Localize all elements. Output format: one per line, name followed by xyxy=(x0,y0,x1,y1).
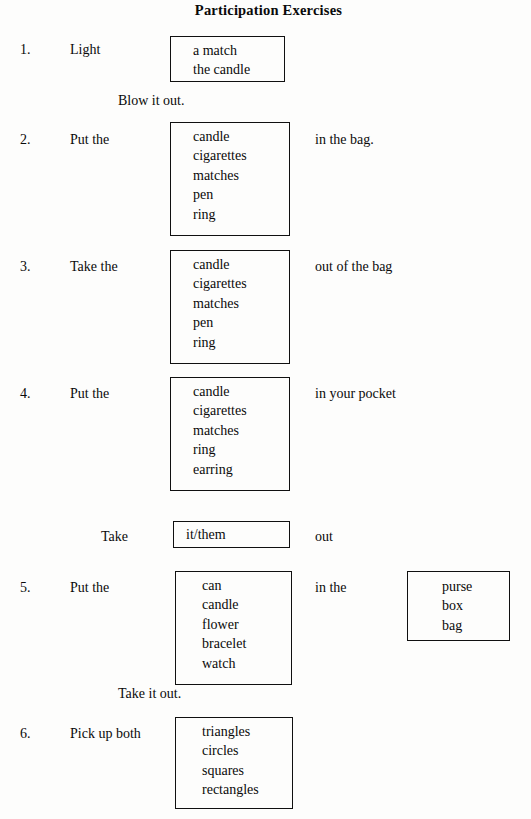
choice-option[interactable]: matches xyxy=(193,294,289,313)
choice-option[interactable]: ring xyxy=(193,205,289,224)
exercise-stem-3: Take the xyxy=(70,259,118,275)
exercise-number-1: 1. xyxy=(20,42,46,58)
exercise-followup-stem-4: Take xyxy=(101,529,128,545)
choice-option[interactable]: matches xyxy=(193,421,289,440)
exercise-stem-5: Put the xyxy=(70,580,109,596)
page-title: Participation Exercises xyxy=(0,2,531,19)
exercise-stem-1: Light xyxy=(70,42,100,58)
choice-option[interactable]: triangles xyxy=(202,722,292,741)
choice-option[interactable]: ring xyxy=(193,440,289,459)
choice-box-2[interactable]: candle cigarettes matches pen ring xyxy=(170,122,290,236)
exercise-note-1: Blow it out. xyxy=(118,93,185,109)
choice-box-6[interactable]: triangles circles squares rectangles xyxy=(175,717,293,809)
choice-option[interactable]: rectangles xyxy=(202,780,292,799)
exercise-stem-4: Put the xyxy=(70,386,109,402)
exercise-number-4: 4. xyxy=(20,386,46,402)
choice-option[interactable]: circles xyxy=(202,741,292,760)
exercise-tail-2: in the bag. xyxy=(315,132,374,148)
choice-option[interactable]: box xyxy=(442,596,509,615)
exercise-tail-3: out of the bag xyxy=(315,259,392,275)
choice-option[interactable]: cigarettes xyxy=(193,401,289,420)
choice-option[interactable]: pen xyxy=(193,313,289,332)
choice-option[interactable]: ring xyxy=(193,333,289,352)
choice-option[interactable]: cigarettes xyxy=(193,274,289,293)
choice-box-1[interactable]: a match the candle xyxy=(170,36,285,82)
choice-option[interactable]: it/them xyxy=(186,525,289,544)
exercise-number-6: 6. xyxy=(20,726,46,742)
exercise-number-5: 5. xyxy=(20,580,46,596)
exercise-tail-5: in the xyxy=(315,580,347,596)
exercise-note-5: Take it out. xyxy=(118,686,181,702)
choice-option[interactable]: purse xyxy=(442,577,509,596)
choice-option[interactable]: the candle xyxy=(193,60,284,79)
choice-option[interactable]: candle xyxy=(202,595,291,614)
choice-option[interactable]: cigarettes xyxy=(193,146,289,165)
choice-option[interactable]: matches xyxy=(193,166,289,185)
choice-option[interactable]: bag xyxy=(442,616,509,635)
choice-option[interactable]: earring xyxy=(193,460,289,479)
choice-box-3[interactable]: candle cigarettes matches pen ring xyxy=(170,250,290,364)
choice-option[interactable]: flower xyxy=(202,615,291,634)
choice-option[interactable]: bracelet xyxy=(202,634,291,653)
choice-box-4-followup[interactable]: it/them xyxy=(173,521,290,548)
choice-option[interactable]: candle xyxy=(193,127,289,146)
exercise-stem-6: Pick up both xyxy=(70,726,141,742)
choice-option[interactable]: can xyxy=(202,576,291,595)
exercise-number-3: 3. xyxy=(20,259,46,275)
choice-option[interactable]: candle xyxy=(193,255,289,274)
exercise-tail-4: in your pocket xyxy=(315,386,396,402)
choice-option[interactable]: watch xyxy=(202,654,291,673)
choice-box-5[interactable]: can candle flower bracelet watch xyxy=(175,571,292,685)
exercise-stem-2: Put the xyxy=(70,132,109,148)
document-page: Participation Exercises 1. Light a match… xyxy=(0,0,531,819)
choice-box-5-container[interactable]: purse box bag xyxy=(407,571,510,641)
exercise-followup-tail-4: out xyxy=(315,529,333,545)
exercise-number-2: 2. xyxy=(20,132,46,148)
choice-box-4[interactable]: candle cigarettes matches ring earring xyxy=(170,377,290,491)
choice-option[interactable]: a match xyxy=(193,41,284,60)
choice-option[interactable]: squares xyxy=(202,761,292,780)
choice-option[interactable]: candle xyxy=(193,382,289,401)
choice-option[interactable]: pen xyxy=(193,185,289,204)
